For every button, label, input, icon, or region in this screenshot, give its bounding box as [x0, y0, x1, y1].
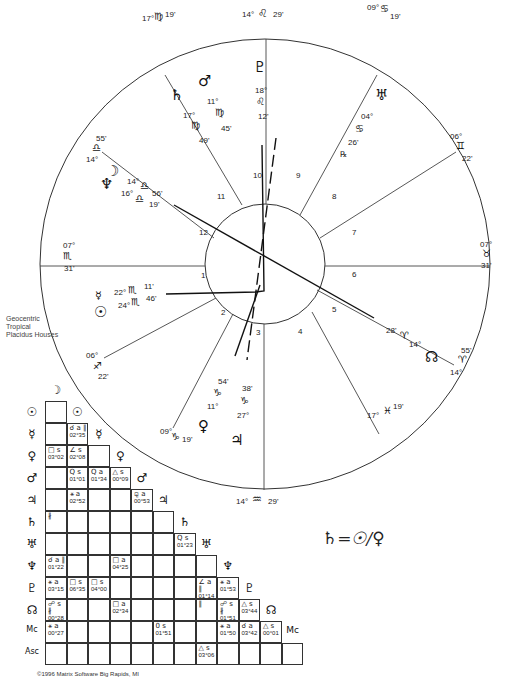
aspect-grid-row-header: Mc [21, 625, 43, 634]
house-number-11: 11 [217, 192, 225, 201]
aspect-grid-cell: ☌ a ∥01°22 [45, 555, 67, 577]
aspect-grid-cell: △ s00°09 [110, 467, 132, 489]
aspect-grid-cell [88, 489, 110, 511]
aspect-orb: 01°01 [70, 476, 88, 483]
aspect-grid-cell [131, 533, 153, 555]
aspect-grid-cell: □ a04°25 [110, 555, 132, 577]
aspect-orb: 01°34 [91, 476, 109, 483]
house-number-5: 5 [332, 305, 336, 314]
aspect-grid-row-header: ♅ [21, 537, 43, 551]
aspect-orb: 00°01 [263, 630, 281, 637]
cusp-6-min: 22' [98, 372, 108, 381]
aspect-grid-cell [67, 621, 89, 643]
uranus-sign: ♋ [355, 124, 364, 134]
aspect-grid-cell [88, 643, 110, 665]
aspect-type: △ s [263, 623, 281, 630]
aspect-grid-cell: ⚼ a00°53 [131, 489, 153, 511]
cusp-11-min: 19' [390, 12, 400, 21]
aspect-orb: 03°02 [48, 454, 66, 461]
aspect-type: ∦ [48, 513, 66, 520]
aspect-grid-cell: Q s01°23 [174, 533, 196, 555]
aspect-grid-cell [45, 467, 67, 489]
aspect-type: ⚹ a [48, 623, 66, 630]
neptune-sign: ♎ [135, 194, 144, 204]
aspect-grid-row-header: ☿ [21, 427, 43, 441]
saturn-icon: ♄ [170, 88, 183, 103]
aspect-grid-cell [153, 533, 175, 555]
aspect-grid-cell [153, 599, 175, 621]
mars-sign: ♍ [215, 108, 224, 118]
aspect-grid-cell [153, 555, 175, 577]
aspect-grid-cell: ⚹ a01°53 [217, 577, 239, 599]
aspect-grid-cell: □ s06°35 [67, 577, 89, 599]
aspect-grid-cell: □ a02°34 [110, 599, 132, 621]
cusp-12-sign: ♊ [456, 141, 465, 151]
aspect-grid-column-header: ☊ [260, 603, 282, 617]
copyright: ©1996 Matrix Software Big Rapids, MI [37, 671, 139, 677]
aspect-grid-cell: Q a01°34 [88, 467, 110, 489]
saturn-sign: ♍ [191, 121, 200, 131]
aspect-grid-cell: Q s01°01 [67, 467, 89, 489]
aspect-grid-cell: □ s03°02 [45, 445, 67, 467]
aspect-grid-cell [110, 643, 132, 665]
moon-deg: 14° [127, 177, 139, 186]
mercury-min: 11' [144, 282, 154, 291]
cusp-8-sign: ♈ [458, 355, 467, 365]
aspect-type: Q s [177, 535, 195, 542]
chart-settings-line: Geocentric [6, 315, 58, 323]
aspect-grid-cell [131, 577, 153, 599]
aspect-type: □ s [48, 447, 66, 454]
north-node-sign: ♈ [400, 331, 409, 341]
aspect-grid-cell: ☍ s ∦01°51 [217, 599, 239, 621]
north-node-icon: ☊ [425, 350, 438, 365]
aspect-type: ∠ a ∥ [199, 579, 217, 593]
aspect-orb: 03°44 [242, 608, 260, 615]
cusp-6-sign: ♐ [93, 361, 102, 371]
neptune-icon: ♆ [100, 177, 113, 192]
aspect-type: ☌ a ∥ [70, 425, 88, 432]
aspect-type: □ a [113, 557, 131, 564]
house-number-9: 9 [296, 171, 300, 180]
cusp-9-sign: ♓ [383, 406, 392, 416]
aspect-grid-cell [110, 489, 132, 511]
aspect-grid-cell [196, 621, 218, 643]
aspect-type: 0 s [156, 623, 174, 630]
chart-settings-line: Placidus Houses [6, 331, 58, 339]
aspect-grid-row-header: ♆ [21, 559, 43, 573]
aspect-orb: 02°08 [70, 454, 88, 461]
aspect-grid-cell [67, 643, 89, 665]
aspect-grid-column-header: ♃ [153, 493, 175, 507]
aspect-type: ∥ [199, 601, 217, 608]
aspect-type: Q a [91, 469, 109, 476]
aspect-grid-cell [217, 643, 239, 665]
house-number-3: 3 [256, 328, 260, 337]
cusp-10-deg: 14° [242, 10, 254, 19]
aspect-grid-cell [131, 511, 153, 533]
aspect-type: □ s [91, 579, 109, 586]
aspect-orb: 01°50 [220, 630, 238, 637]
pluto-deg: 18° [255, 86, 267, 95]
cusp-11-sign: ♋ [380, 4, 389, 14]
aspect-grid-cell [153, 577, 175, 599]
aspect-grid-cell [196, 555, 218, 577]
aspect-grid-row-header: ☉ [21, 405, 43, 419]
cusp-2-deg: 14° [86, 155, 98, 164]
aspect-grid-cell [45, 401, 67, 423]
pluto-icon: ♇ [253, 60, 266, 75]
cusp-5-min: 19' [182, 435, 192, 444]
sun-icon: ☉ [94, 305, 107, 320]
handwritten-midpoint-formula: ♄=☉/♀ [322, 528, 385, 548]
cusp-1-deg: 07° [63, 241, 75, 250]
aspect-grid-row-header: ♀ [21, 449, 43, 463]
aspect-grid-cell [67, 599, 89, 621]
house-number-12: 12 [199, 228, 208, 237]
cusp-4-deg: 14° [236, 497, 248, 506]
cusp-6-deg: 06° [86, 351, 98, 360]
sun-sign: ♏ [131, 297, 140, 307]
uranus-retrograde: ℞ [340, 150, 347, 159]
aspect-orb: 00°53 [134, 498, 152, 505]
aspect-type: ⚹ a [220, 623, 238, 630]
outer-circle [40, 39, 490, 489]
neptune-deg: 16° [121, 189, 133, 198]
cusp-4-sign: ♒ [252, 494, 262, 505]
